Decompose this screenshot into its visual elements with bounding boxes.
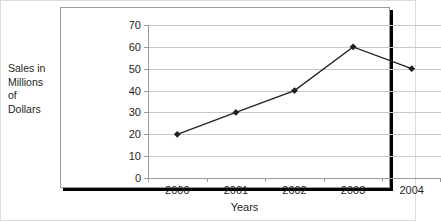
plot-box: 010203040506070 20002001200220032004 bbox=[60, 7, 390, 188]
x-tick-label: 2001 bbox=[224, 185, 248, 196]
x-tick-label: 2000 bbox=[165, 185, 189, 196]
y-tick-label: 30 bbox=[129, 107, 141, 118]
x-tick-mark bbox=[382, 178, 383, 182]
x-tick-mark bbox=[324, 178, 325, 182]
y-tick-label: 20 bbox=[129, 129, 141, 140]
y-tick-label: 40 bbox=[129, 85, 141, 96]
y-tick-label: 0 bbox=[135, 173, 141, 184]
plot-area: 010203040506070 20002001200220032004 bbox=[148, 25, 441, 178]
gridline bbox=[148, 178, 441, 179]
y-tick-label: 10 bbox=[129, 151, 141, 162]
y-tick-label: 70 bbox=[129, 20, 141, 31]
line-series bbox=[148, 25, 441, 178]
y-axis-title: Sales in Millions of Dollars bbox=[8, 62, 60, 116]
x-axis-title: Years bbox=[0, 201, 417, 214]
x-tick-mark bbox=[148, 178, 149, 182]
data-point-marker bbox=[408, 65, 415, 72]
y-tick-label: 60 bbox=[129, 41, 141, 52]
x-axis-title-text: Years bbox=[231, 201, 259, 214]
y-tick-label: 50 bbox=[129, 63, 141, 74]
x-tick-label: 2002 bbox=[282, 185, 306, 196]
x-tick-label: 2003 bbox=[341, 185, 365, 196]
x-tick-mark bbox=[265, 178, 266, 182]
data-point-marker bbox=[233, 109, 240, 116]
x-tick-label: 2004 bbox=[399, 185, 423, 196]
data-point-marker bbox=[174, 131, 181, 138]
x-tick-mark bbox=[207, 178, 208, 182]
